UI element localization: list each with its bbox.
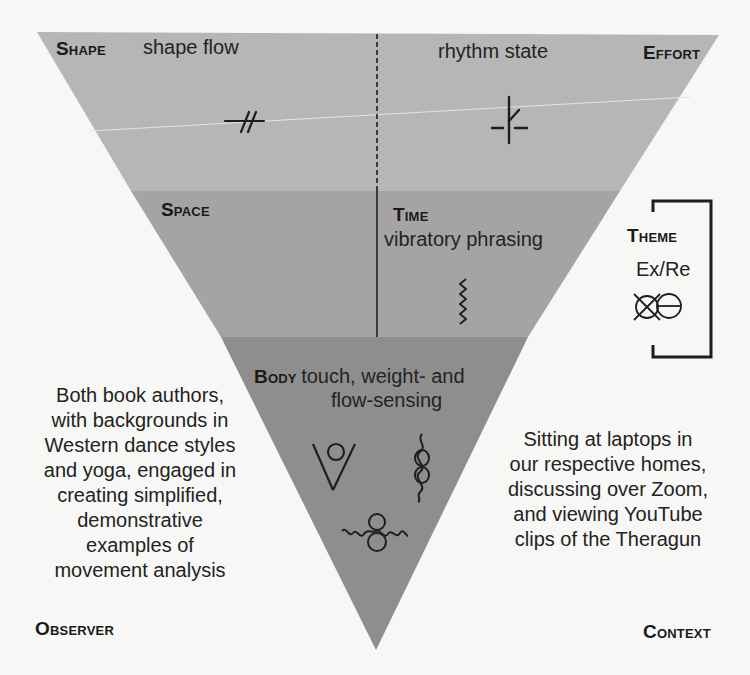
observer-line: with backgrounds in <box>20 408 260 433</box>
band-top-shape-effort <box>37 32 719 191</box>
context-line: our respective homes, <box>488 452 728 477</box>
context-line: Sitting at laptops in <box>488 427 728 452</box>
effort-category-label: Effort <box>643 42 700 64</box>
context-line: discussing over Zoom, <box>488 477 728 502</box>
observer-line: demonstrative <box>20 508 260 533</box>
observer-label: Observer <box>35 618 114 640</box>
rhythm-state-label: rhythm state <box>438 40 548 63</box>
context-line: and viewing YouTube <box>488 502 728 527</box>
observer-line: movement analysis <box>20 558 260 583</box>
context-line: clips of the Theragun <box>488 527 728 552</box>
shape-flow-label: shape flow <box>143 36 239 59</box>
space-category-label: Space <box>161 199 210 221</box>
observer-line: examples of <box>20 533 260 558</box>
shape-category-label: Shape <box>56 38 106 60</box>
observer-line: and yoga, engaged in <box>20 458 260 483</box>
time-category-label: Time <box>393 204 429 226</box>
body-heading: Body touch, weight- and <box>254 365 465 388</box>
body-category-label: Body <box>254 366 297 387</box>
exertion-recuperation-symbol-icon <box>634 294 681 320</box>
context-description: Sitting at laptops in our respective hom… <box>488 427 728 552</box>
observer-line: Western dance styles <box>20 433 260 458</box>
body-detail-line1: touch, weight- and <box>301 365 464 387</box>
observer-line: Both book authors, <box>20 383 260 408</box>
context-label: Context <box>643 621 711 643</box>
vibratory-phrasing-label: vibratory phrasing <box>384 228 543 251</box>
observer-line: creating simplified, <box>20 483 260 508</box>
body-detail-line2: flow-sensing <box>331 389 442 412</box>
observer-description: Both book authors, with backgrounds in W… <box>20 383 260 583</box>
theme-detail-label: Ex/Re <box>636 258 690 281</box>
theme-category-label: Theme <box>627 225 677 247</box>
